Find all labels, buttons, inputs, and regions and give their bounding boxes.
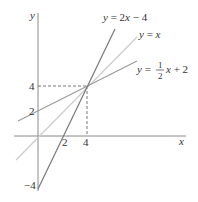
line-y-equals-2x-minus-4 — [38, 29, 115, 189]
label-2x-rhs: − 4 — [130, 11, 148, 23]
label-half-lhs: y = — [136, 63, 151, 75]
label-y-equals-2x-minus-4: y = 2x − 4 — [102, 11, 148, 23]
label-half-num: 1 — [158, 60, 163, 70]
label-x-var: x — [155, 28, 161, 40]
y-tick-4: 4 — [29, 80, 35, 92]
line-y-equals-half-x-plus-2 — [18, 61, 137, 121]
label-half-den: 2 — [158, 71, 163, 81]
label-x-eq: = — [144, 28, 156, 40]
label-y-equals-x: y = x — [138, 28, 161, 40]
x-tick-4: 4 — [83, 136, 89, 148]
y-axis-label: y — [29, 9, 35, 21]
label-half-rhs: x + 2 — [165, 63, 188, 75]
line-y-equals-x — [16, 37, 137, 160]
y-tick-2: 2 — [29, 105, 35, 117]
label-2x-eq: = 2 — [108, 11, 125, 23]
graph-diagram: y x 2 4 4 2 −4 y = 2x − 4 y = x y = 1 2 … — [0, 0, 198, 202]
label-y-equals-half-x-plus-2: y = 1 2 x + 2 — [136, 60, 188, 81]
y-tick-neg4: −4 — [24, 179, 36, 191]
x-axis-label: x — [178, 135, 184, 147]
x-tick-2: 2 — [62, 136, 68, 148]
